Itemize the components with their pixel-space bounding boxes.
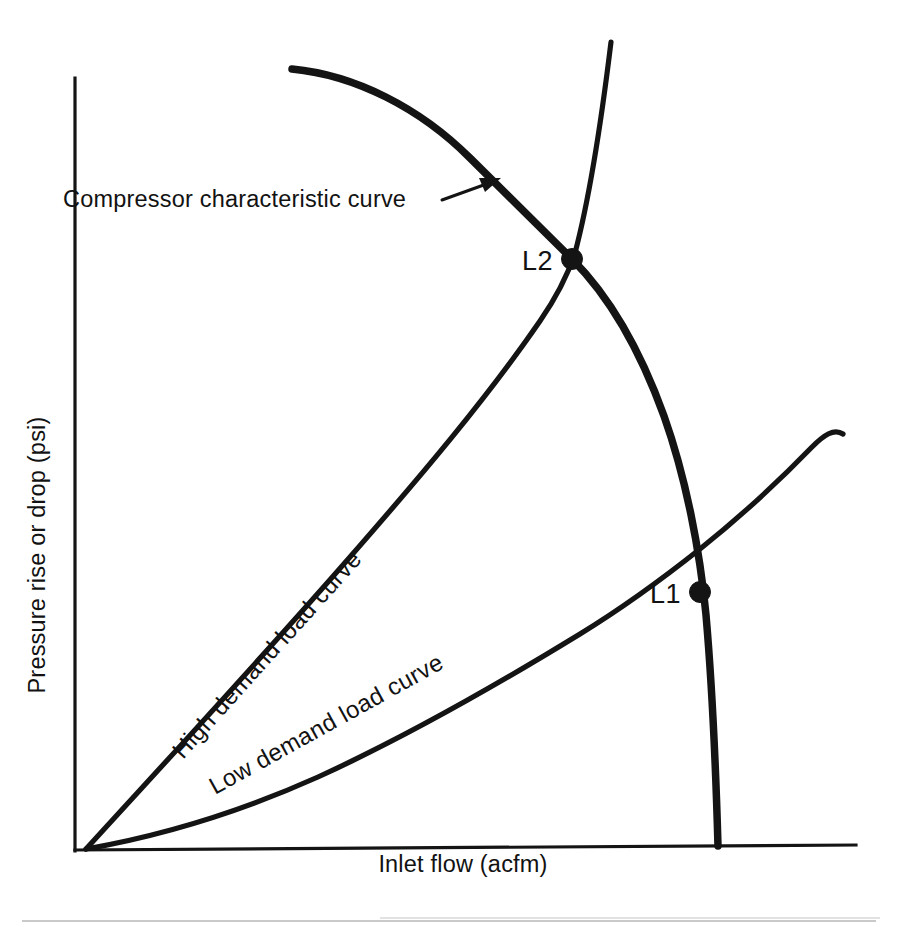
point-label-l2: L2 <box>522 246 553 276</box>
compressor-callout-label: Compressor characteristic curve <box>63 186 406 212</box>
x-axis-label: Inlet flow (acfm) <box>378 851 547 877</box>
figure-container: Pressure rise or drop (psi) Inlet flow (… <box>0 0 898 927</box>
marker-dot-l1 <box>690 582 711 603</box>
point-label-l1: L1 <box>650 579 681 609</box>
compressor-load-curve-chart: Pressure rise or drop (psi) Inlet flow (… <box>0 0 898 927</box>
marker-dot-l2 <box>562 249 583 270</box>
y-axis-label: Pressure rise or drop (psi) <box>24 416 50 693</box>
